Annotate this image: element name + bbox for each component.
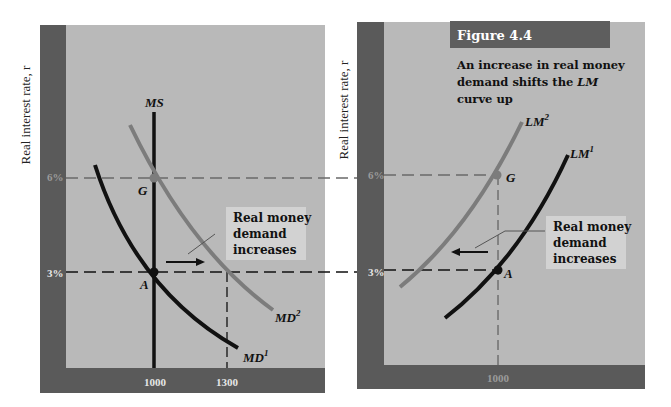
left-point-g <box>150 174 159 183</box>
right-point-g <box>493 171 502 180</box>
left-callout-line3: increases <box>233 243 297 257</box>
left-ytick-3: 3% <box>47 267 64 279</box>
left-point-a <box>150 268 159 277</box>
right-point-a-label: A <box>503 266 513 281</box>
right-callout-line2: demand <box>553 236 607 250</box>
caption-line2: demand shifts the LM <box>457 75 599 89</box>
left-point-a-label: A <box>139 277 149 292</box>
right-point-a <box>494 266 503 275</box>
left-point-g-label: G <box>138 183 148 198</box>
figure-label: Figure 4.4 <box>457 28 532 43</box>
left-y-axis-label: Real interest rate, r <box>18 65 33 165</box>
left-x-axis-bar <box>40 368 325 393</box>
left-ytick-6: 6% <box>47 171 64 183</box>
right-callout-line1: Real money <box>553 220 632 234</box>
caption-line3: curve up <box>457 92 513 106</box>
right-ytick-3: 3% <box>368 266 385 278</box>
left-xtick-1000: 1000 <box>144 376 167 388</box>
left-xtick-1300: 1300 <box>216 376 239 388</box>
right-callout-line3: increases <box>553 252 617 266</box>
caption-line1: An increase in real money <box>456 58 625 72</box>
right-panel: Real interest rate, r 6% 3% 1000 Figure … <box>336 21 645 389</box>
left-callout-line1: Real money <box>233 211 312 225</box>
right-ytick-6: 6% <box>368 169 385 181</box>
right-y-axis-label: Real interest rate, r <box>336 60 351 160</box>
right-point-g-label: G <box>506 170 516 185</box>
right-y-axis-bar <box>357 22 384 389</box>
left-y-axis-bar <box>40 25 66 393</box>
right-xtick-1000: 1000 <box>487 372 510 384</box>
left-callout-line2: demand <box>233 227 287 241</box>
figure-canvas: Real interest rate, r 6% 3% 1000 1300 MS… <box>0 0 671 407</box>
ms-label: MS <box>144 95 164 110</box>
left-panel: Real interest rate, r 6% 3% 1000 1300 MS… <box>18 25 357 393</box>
